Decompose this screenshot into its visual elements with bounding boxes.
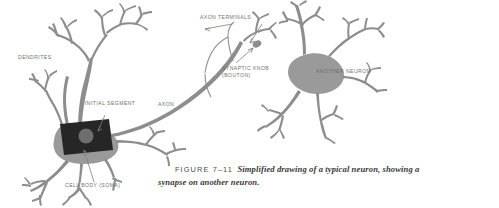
caption-line-2: synapse on another neuron. [158,177,475,187]
label-bouton: (BOUTON) [222,72,251,79]
label-axon: AXON [158,101,174,108]
dendrite-branch-left [29,69,64,129]
dendrite-trunk-upperleft [63,76,70,131]
label-another-neuron: ANOTHER NEURON [316,68,371,75]
label-dendrites: DENDRITES [18,54,51,61]
neuron-figure: DENDRITES INITIAL SEGMENT CELL BODY (SOM… [0,0,499,208]
label-axon-terminals: AXON TERMINALS [200,14,251,21]
label-initial-segment: INITIAL SEGMENT [85,100,135,107]
figure-caption: FIGURE 7–11 Simplified drawing of a typi… [175,158,475,187]
nucleus [79,129,94,144]
axon [111,41,243,137]
caption-line-1: Simplified drawing of a typical neuron, … [237,164,419,174]
label-cell-body: CELL BODY (SOMA) [65,182,120,189]
label-synaptic-knob: SYNAPTIC KNOB [222,65,269,72]
synaptic-knob [252,39,263,49]
figure-number: FIGURE 7–11 [175,165,233,174]
